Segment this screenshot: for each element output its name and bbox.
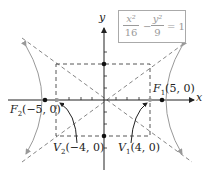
focus-f2-label: F2(−5, 0) bbox=[10, 104, 61, 118]
fraction-x-denominator: 16 bbox=[123, 26, 139, 39]
x-axis-label: x bbox=[196, 92, 202, 103]
equals-one: = 1 bbox=[167, 21, 185, 32]
co-vertex-top-point bbox=[102, 62, 107, 67]
focus-f2-point bbox=[43, 98, 48, 103]
vertex-v2-point bbox=[55, 98, 59, 102]
y-axis-label: y bbox=[99, 12, 105, 23]
fraction-y: y² 9 bbox=[151, 13, 164, 39]
co-vertex-bottom-point bbox=[102, 134, 107, 139]
v2-pointer-arrow bbox=[60, 103, 77, 143]
v1-pointer-arrow bbox=[131, 103, 147, 143]
fraction-y-numerator: y² bbox=[151, 13, 164, 26]
fraction-y-denominator: 9 bbox=[151, 26, 164, 39]
focus-f1-point bbox=[160, 98, 165, 103]
equation-box: x² 16 − y² 9 = 1 bbox=[118, 10, 186, 43]
vertex-v2-label: V2(−4, 0) bbox=[53, 142, 104, 156]
vertex-v1-label: V1(4, 0) bbox=[118, 142, 160, 156]
fraction-x: x² 16 bbox=[123, 13, 139, 39]
fraction-x-numerator: x² bbox=[123, 13, 139, 26]
focus-f1-label: F1(5, 0) bbox=[153, 83, 195, 97]
vertex-v1-point bbox=[148, 98, 152, 102]
